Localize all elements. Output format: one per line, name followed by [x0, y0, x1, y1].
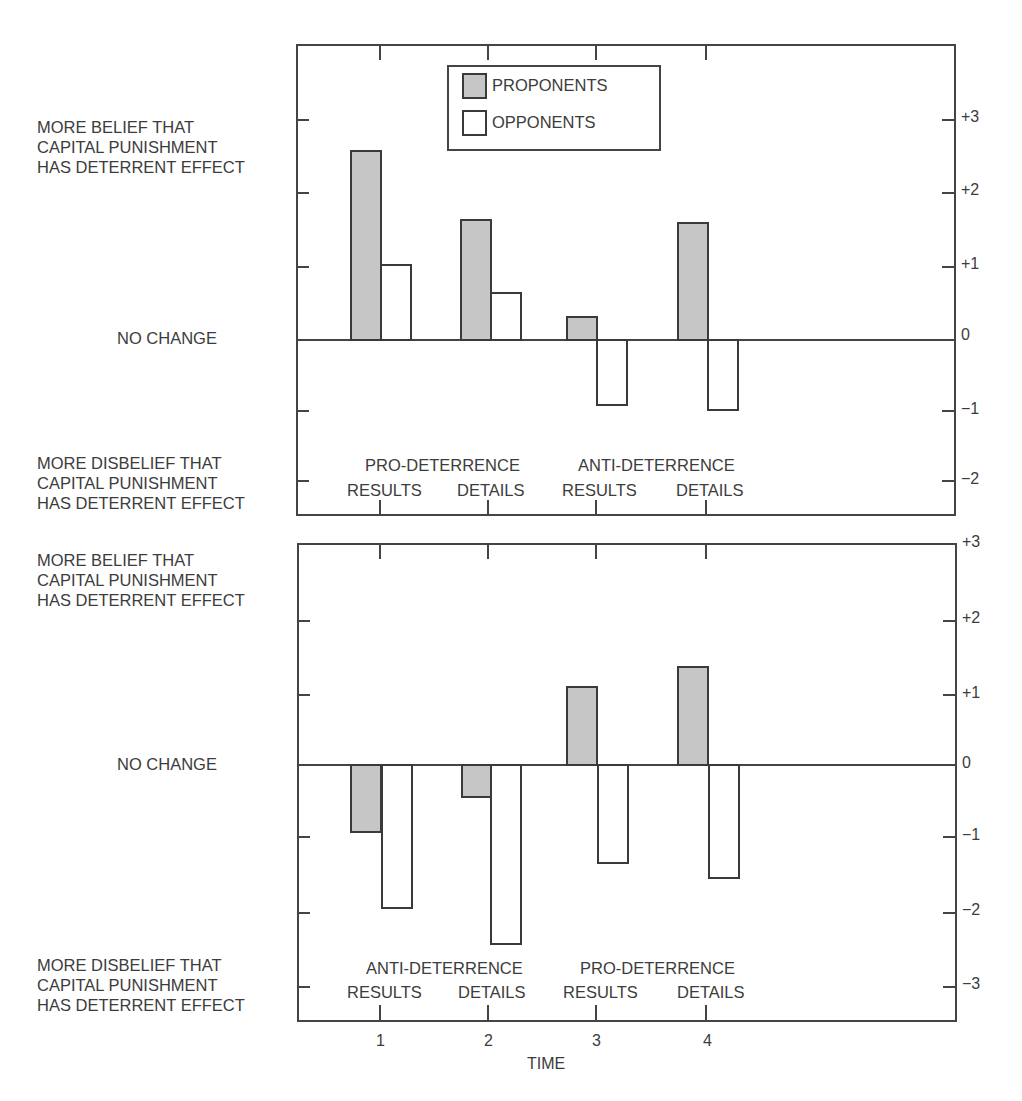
top-panel-bottom-tick	[705, 500, 707, 515]
bottom-panel-bottom-tick	[705, 1005, 707, 1020]
top-sub-label: DETAILS	[457, 481, 525, 500]
label-line: MORE BELIEF THAT	[37, 550, 245, 570]
label-line: CAPITAL PUNISHMENT	[37, 473, 245, 493]
top-left-tick	[297, 119, 309, 121]
bottom-right-tick	[943, 836, 955, 838]
bottom-condition-left: ANTI-DETERRENCE	[366, 959, 523, 978]
bottom-no-change-label: NO CHANGE	[117, 755, 217, 774]
bottom-bar-opponents-t4	[708, 764, 740, 879]
top-panel-top-tick	[487, 45, 489, 60]
bottom-panel-bottom-tick	[487, 1005, 489, 1020]
bottom-bar-proponents-t3	[566, 686, 598, 766]
top-sub-label: RESULTS	[347, 481, 422, 500]
bottom-right-tick	[943, 694, 955, 696]
top-condition-right: ANTI-DETERRENCE	[578, 456, 735, 475]
legend-proponents: PROPONENTS	[492, 76, 608, 95]
bottom-more-disbelief-label: MORE DISBELIEF THAT CAPITAL PUNISHMENT H…	[37, 955, 245, 1015]
top-left-tick	[297, 192, 309, 194]
top-left-tick	[297, 266, 309, 268]
bottom-bar-proponents-t2	[461, 764, 492, 798]
top-right-tick	[942, 480, 954, 482]
opponents-swatch-icon	[462, 110, 487, 136]
bottom-bar-opponents-t1	[381, 764, 413, 909]
top-y-tick-label: +3	[961, 108, 979, 126]
bottom-condition-right: PRO-DETERRENCE	[580, 959, 735, 978]
label-line: MORE DISBELIEF THAT	[37, 453, 245, 473]
bottom-y-tick-label: −1	[962, 826, 980, 844]
bottom-left-tick	[298, 694, 310, 696]
bottom-panel-top-tick	[487, 544, 489, 559]
top-bar-opponents-t4	[707, 339, 739, 411]
top-no-change-label: NO CHANGE	[117, 329, 217, 348]
x-tick-label: 3	[592, 1032, 601, 1050]
bottom-right-tick	[943, 620, 955, 622]
label-line: HAS DETERRENT EFFECT	[37, 157, 245, 177]
x-tick-label: 1	[376, 1032, 385, 1050]
bottom-y-tick-label: −2	[962, 901, 980, 919]
top-left-tick	[297, 480, 309, 482]
top-y-tick-label: +2	[961, 181, 979, 199]
top-bar-proponents-t1	[350, 150, 382, 341]
bottom-y-tick-label: +3	[962, 533, 980, 551]
bottom-panel-bottom-tick	[595, 1005, 597, 1020]
label-line: CAPITAL PUNISHMENT	[37, 137, 245, 157]
bottom-panel-top-tick	[705, 544, 707, 559]
top-right-tick	[942, 266, 954, 268]
top-panel-bottom-tick	[595, 500, 597, 515]
bottom-sub-label: RESULTS	[347, 983, 422, 1002]
x-tick-label: 2	[484, 1032, 493, 1050]
top-bar-opponents-t3	[596, 339, 628, 406]
top-more-disbelief-label: MORE DISBELIEF THAT CAPITAL PUNISHMENT H…	[37, 453, 245, 513]
bottom-panel-top-tick	[379, 544, 381, 559]
legend-opponents: OPPONENTS	[492, 113, 596, 132]
label-line: CAPITAL PUNISHMENT	[37, 570, 245, 590]
label-line: HAS DETERRENT EFFECT	[37, 493, 245, 513]
top-bar-opponents-t1	[380, 264, 412, 341]
top-right-tick	[942, 192, 954, 194]
top-y-tick-label: −1	[961, 400, 979, 418]
bottom-sub-label: DETAILS	[677, 983, 745, 1002]
top-y-tick-label: −2	[961, 470, 979, 488]
bottom-bar-opponents-t3	[597, 764, 629, 864]
top-condition-left: PRO-DETERRENCE	[365, 456, 520, 475]
bottom-right-tick	[943, 912, 955, 914]
bottom-bar-opponents-t2	[490, 764, 522, 945]
top-panel-top-tick	[595, 45, 597, 60]
top-sub-label: RESULTS	[562, 481, 637, 500]
top-panel-bottom-tick	[379, 500, 381, 515]
bottom-left-tick	[298, 836, 310, 838]
bottom-left-tick	[298, 620, 310, 622]
top-y-tick-label: +1	[961, 255, 979, 273]
label-line: HAS DETERRENT EFFECT	[37, 995, 245, 1015]
bottom-right-tick	[943, 986, 955, 988]
bottom-panel-bottom-tick	[379, 1005, 381, 1020]
bottom-panel-top-tick	[595, 544, 597, 559]
label-line: MORE BELIEF THAT	[37, 117, 245, 137]
bottom-y-tick-label: −3	[962, 975, 980, 993]
label-line: CAPITAL PUNISHMENT	[37, 975, 245, 995]
label-line: MORE DISBELIEF THAT	[37, 955, 245, 975]
top-bar-proponents-t3	[566, 316, 598, 341]
proponents-swatch-icon	[462, 73, 487, 99]
bottom-more-belief-label: MORE BELIEF THAT CAPITAL PUNISHMENT HAS …	[37, 550, 245, 610]
x-axis-title: TIME	[527, 1055, 565, 1073]
x-tick-label: 4	[703, 1032, 712, 1050]
top-bar-opponents-t2	[490, 292, 522, 341]
top-panel-bottom-tick	[487, 500, 489, 515]
bottom-y-tick-label: +1	[962, 684, 980, 702]
top-panel-top-tick	[705, 45, 707, 60]
bottom-sub-label: RESULTS	[563, 983, 638, 1002]
bottom-sub-label: DETAILS	[458, 983, 526, 1002]
bottom-y-tick-label: 0	[962, 754, 971, 772]
top-more-belief-label: MORE BELIEF THAT CAPITAL PUNISHMENT HAS …	[37, 117, 245, 177]
bottom-left-tick	[298, 912, 310, 914]
top-right-tick	[942, 410, 954, 412]
top-panel-top-tick	[379, 45, 381, 60]
top-sub-label: DETAILS	[676, 481, 744, 500]
top-bar-proponents-t4	[677, 222, 709, 341]
bottom-left-tick	[298, 986, 310, 988]
top-right-tick	[942, 119, 954, 121]
top-y-tick-label: 0	[961, 326, 970, 344]
top-left-tick	[297, 410, 309, 412]
bottom-bar-proponents-t4	[677, 666, 709, 766]
